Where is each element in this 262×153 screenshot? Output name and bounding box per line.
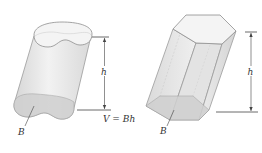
arrow-down-icon (103, 105, 106, 109)
oblique-hexagonal-prism: h B (146, 15, 258, 136)
cylinder-height-label: h (101, 67, 107, 77)
arrow-up-icon (103, 38, 106, 42)
volume-formula: V = Bh (103, 114, 135, 124)
arrow-down-icon (249, 107, 252, 111)
volume-figure: h B V = Bh h B (0, 0, 262, 153)
arrow-up-icon (249, 33, 252, 37)
oblique-cylinder: h B (14, 22, 111, 137)
prism-base-label: B (159, 126, 167, 136)
cylinder-base-label: B (17, 127, 25, 137)
prism-height-label: h (248, 67, 254, 77)
